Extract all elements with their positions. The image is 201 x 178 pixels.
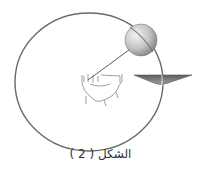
- figure-caption: الشكل ( 2 ): [0, 147, 201, 161]
- center-pivot-hand: [82, 74, 122, 106]
- sphere-ball: [125, 24, 157, 56]
- string-line: [88, 47, 133, 80]
- funnel-marker: [134, 75, 192, 86]
